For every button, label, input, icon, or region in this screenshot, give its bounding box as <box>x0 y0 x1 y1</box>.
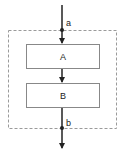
point-a-label: a <box>66 18 71 28</box>
block-b-label: B <box>60 91 66 101</box>
point-b-label: b <box>66 118 71 128</box>
point-b-dot <box>60 126 64 130</box>
block-a-label: A <box>60 52 66 62</box>
sequential-block-diagram: a A B b <box>0 0 129 153</box>
point-a-dot <box>60 28 64 32</box>
